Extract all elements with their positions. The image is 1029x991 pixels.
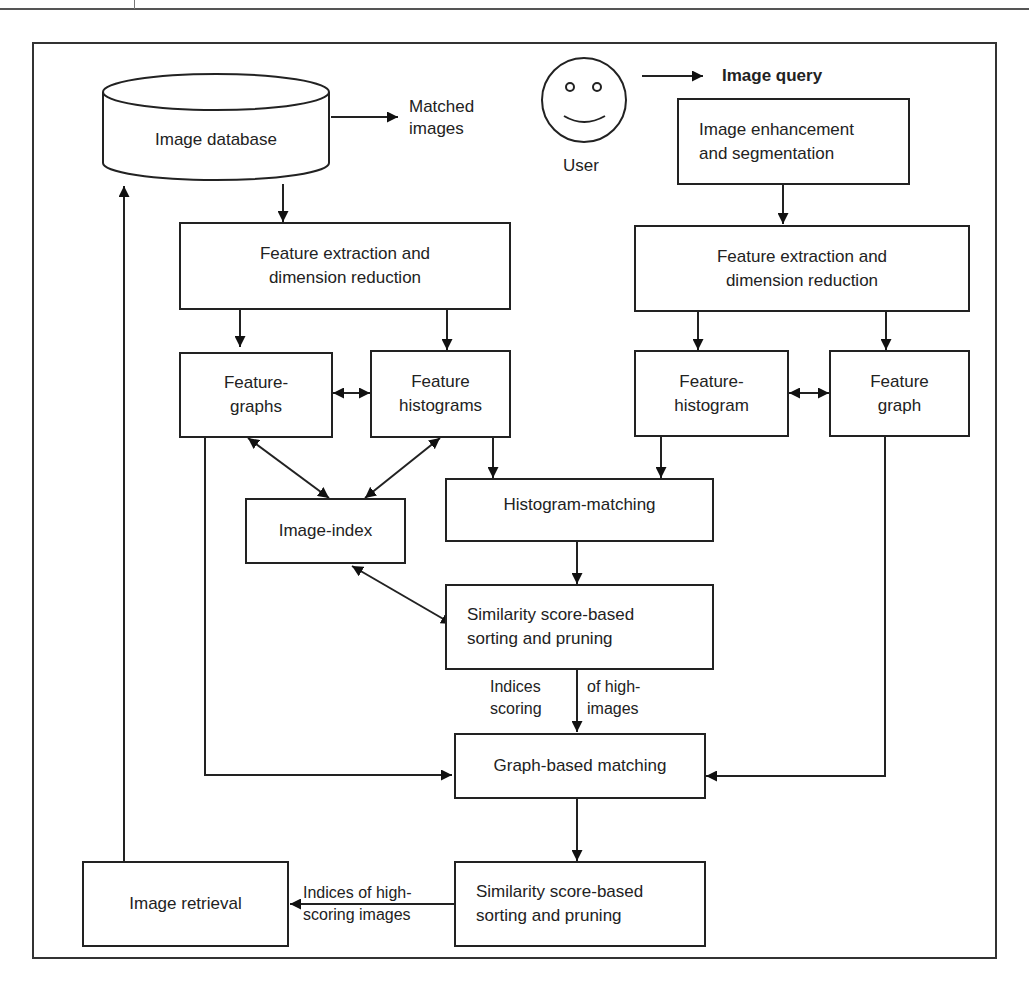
user-label: User: [563, 155, 599, 177]
feature-histograms-box: Feature histograms: [370, 350, 511, 438]
left-feature-extraction-box: Feature extraction and dimension reducti…: [179, 222, 511, 310]
matched-images-label: Matched images: [409, 96, 474, 140]
database-icon: [100, 70, 336, 188]
right-feature-extraction-box: Feature extraction and dimension reducti…: [634, 225, 970, 312]
image-query-label: Image query: [722, 65, 822, 87]
similarity-sorting-box-1: Similarity score-based sorting and pruni…: [445, 584, 714, 670]
indices-scoring-label: Indices scoring: [490, 676, 542, 720]
image-retrieval-box: Image retrieval: [82, 861, 289, 947]
feature-graph-box: Feature graph: [829, 350, 970, 437]
feature-graphs-box: Feature- graphs: [179, 352, 333, 438]
histogram-matching-box: Histogram-matching: [445, 478, 714, 542]
retrieval-edge-label: Indices of high- scoring images: [303, 882, 412, 926]
image-index-box: Image-index: [245, 498, 406, 564]
image-enhancement-box: Image enhancement and segmentation: [677, 98, 910, 185]
feature-histogram-box: Feature- histogram: [634, 350, 789, 437]
similarity-sorting-box-2: Similarity score-based sorting and pruni…: [454, 861, 706, 947]
user-face-icon: [537, 53, 631, 147]
of-high-images-label: of high- images: [587, 676, 640, 720]
graph-based-matching-box: Graph-based matching: [454, 733, 706, 799]
image-database-label: Image database: [100, 130, 332, 150]
